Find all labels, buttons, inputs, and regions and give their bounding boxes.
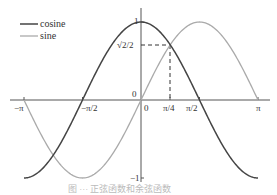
y-tick-label: 0 — [132, 89, 137, 99]
legend-sine-label: sine — [40, 30, 57, 41]
x-tick-label: π — [256, 103, 261, 113]
x-tick-label: π/4 — [163, 103, 175, 113]
y-tick-label: −1 — [130, 173, 140, 183]
x-tick-label: 0 — [144, 103, 149, 113]
y-tick-label: 1 — [134, 16, 139, 26]
sine-cosine-chart: cosine sine −π −π/2 0 π/4 π/2 π 1 √2/2 0… — [0, 0, 277, 195]
legend-cosine-label: cosine — [40, 18, 66, 29]
x-tick-label: −π — [14, 103, 24, 113]
figure-caption: 图 ··· 正弦函数和余弦函数 — [68, 183, 172, 194]
x-tick-label: −π/2 — [81, 103, 98, 113]
y-tick-label: √2/2 — [117, 40, 133, 50]
x-tick-label: π/2 — [186, 103, 198, 113]
